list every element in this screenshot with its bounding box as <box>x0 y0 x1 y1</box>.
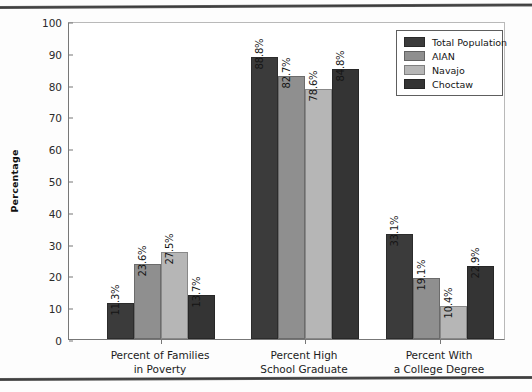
y-axis-tick-label: 70 <box>49 112 69 124</box>
y-axis-tick-mark <box>69 341 73 342</box>
legend-swatch-icon <box>404 51 425 61</box>
bar: 78.6% <box>305 89 332 339</box>
y-axis-tick-label: 60 <box>49 144 69 156</box>
x-axis-category-label: Percent Witha College Degree <box>359 348 519 376</box>
bar-value-label: 78.6% <box>308 71 319 102</box>
legend-label: Total Population <box>432 37 507 48</box>
legend: Total PopulationAIANNavajoChoctaw <box>396 30 503 96</box>
y-axis-tick-mark <box>69 23 73 24</box>
bar-value-label: 10.4% <box>443 288 454 319</box>
bar: 82.7% <box>278 76 305 339</box>
y-axis-tick-mark <box>69 150 73 151</box>
bar: 22.9% <box>467 266 494 339</box>
y-axis-tick-mark <box>69 86 73 87</box>
y-axis-tick-label: 20 <box>49 271 69 283</box>
bar: 23.6% <box>134 264 161 339</box>
legend-item: AIAN <box>404 50 496 62</box>
legend-label: Navajo <box>432 65 465 76</box>
y-axis-tick-mark <box>69 213 73 214</box>
legend-item: Total Population <box>404 36 496 48</box>
legend-swatch-icon <box>404 37 425 47</box>
bar-value-label: 22.9% <box>470 248 481 279</box>
y-axis-tick-mark <box>69 245 73 246</box>
legend-swatch-icon <box>404 79 425 89</box>
y-axis-tick-mark <box>69 277 73 278</box>
legend-label: Choctaw <box>432 79 473 90</box>
y-axis-tick-mark <box>69 182 73 183</box>
bar-value-label: 13.7% <box>191 277 202 308</box>
y-axis-tick-label: 40 <box>49 208 69 220</box>
x-axis-tick-mark <box>305 339 306 344</box>
y-axis-tick-mark <box>69 118 73 119</box>
legend-item: Choctaw <box>404 78 496 90</box>
bar-value-label: 11.3% <box>110 285 121 316</box>
bar-value-label: 82.7% <box>281 58 292 89</box>
bar-value-label: 88.8% <box>254 38 265 69</box>
bar: 88.8% <box>251 57 278 339</box>
y-axis-tick-label: 90 <box>49 49 69 61</box>
bar: 19.1% <box>413 278 440 339</box>
y-axis-title: Percentage <box>9 149 20 212</box>
x-axis-category-label: Percent of Familiesin Poverty <box>80 348 240 376</box>
y-axis-tick-label: 10 <box>49 303 69 315</box>
x-axis-tick-mark <box>161 339 162 344</box>
bar-value-label: 33.1% <box>389 215 400 246</box>
x-axis-category-label-line: a College Degree <box>359 362 519 376</box>
bar-chart: Percentage 0102030405060708090100 11.3%2… <box>0 0 532 392</box>
y-axis-tick-label: 0 <box>55 335 69 347</box>
y-axis-tick-label: 80 <box>49 81 69 93</box>
x-axis-category-label-line: Percent of Families <box>80 348 240 362</box>
bar: 27.5% <box>161 252 188 339</box>
legend-item: Navajo <box>404 64 496 76</box>
x-axis-category-label-line: Percent With <box>359 348 519 362</box>
x-axis-category-label-line: in Poverty <box>80 362 240 376</box>
bar: 11.3% <box>107 303 134 339</box>
bar-value-label: 84.8% <box>335 51 346 82</box>
y-axis-tick-mark <box>69 309 73 310</box>
bar-value-label: 19.1% <box>416 260 427 291</box>
y-axis-tick-mark <box>69 54 73 55</box>
bar-group: 88.8%82.7%78.6%84.8% <box>251 23 359 339</box>
bar-group: 11.3%23.6%27.5%13.7% <box>107 23 215 339</box>
bar: 13.7% <box>188 295 215 339</box>
bar-value-label: 23.6% <box>137 246 148 277</box>
bar-value-label: 27.5% <box>164 233 175 264</box>
scanned-page: Percentage 0102030405060708090100 11.3%2… <box>0 0 532 392</box>
bar: 10.4% <box>440 306 467 339</box>
legend-swatch-icon <box>404 65 425 75</box>
bar: 84.8% <box>332 69 359 339</box>
legend-label: AIAN <box>432 51 455 62</box>
y-axis-tick-label: 50 <box>49 176 69 188</box>
x-axis-tick-mark <box>440 339 441 344</box>
bar: 33.1% <box>386 234 413 339</box>
y-axis-tick-label: 100 <box>42 17 69 29</box>
y-axis-tick-label: 30 <box>49 240 69 252</box>
